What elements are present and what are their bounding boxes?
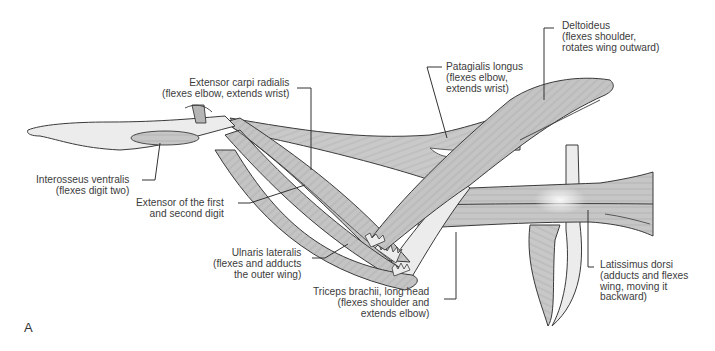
label-description: extends elbow): [313, 309, 429, 320]
label-description: (flexes shoulder,: [562, 32, 659, 43]
label-description: (adducts and flexes: [600, 271, 688, 282]
label-description: backward): [600, 292, 688, 303]
label-patagialis-longus: Patagialis longus (flexes elbow, extends…: [446, 62, 523, 94]
panel-letter: A: [24, 320, 33, 335]
label-description: rotates wing outward): [562, 43, 659, 54]
label-description: extends wrist): [446, 84, 523, 95]
label-description: (flexes and adducts: [213, 259, 301, 270]
label-deltoideus: Deltoideus (flexes shoulder, rotates win…: [562, 21, 659, 53]
leader-interosseus-ventralis: [142, 143, 160, 180]
label-extensor-carpi-radialis: Extensor carpi radialis (flexes elbow, e…: [162, 78, 289, 100]
label-description: and second digit: [136, 209, 224, 220]
label-extensor-first-second-digit: Extensor of the first and second digit: [136, 198, 224, 220]
hand-bones: [28, 105, 236, 150]
label-description: (flexes digit two): [36, 186, 129, 197]
label-description: (flexes elbow, extends wrist): [162, 89, 289, 100]
wing-muscle-diagram: Extensor carpi radialis (flexes elbow, e…: [0, 0, 715, 351]
label-triceps-brachii: Triceps brachii, long head (flexes shoul…: [313, 287, 429, 319]
label-interosseus-ventralis: Interosseus ventralis (flexes digit two): [36, 175, 129, 197]
leader-patagialis-longus: [427, 67, 447, 138]
label-description: (flexes elbow,: [446, 73, 523, 84]
label-description: (flexes shoulder and: [313, 298, 429, 309]
label-latissimus-dorsi: Latissimus dorsi (adducts and flexes win…: [600, 260, 688, 303]
label-description: the outer wing): [213, 270, 301, 281]
scapula-shape: [529, 145, 582, 326]
leader-triceps: [444, 232, 456, 299]
label-ulnaris-lateralis: Ulnaris lateralis (flexes and adducts th…: [213, 248, 301, 280]
